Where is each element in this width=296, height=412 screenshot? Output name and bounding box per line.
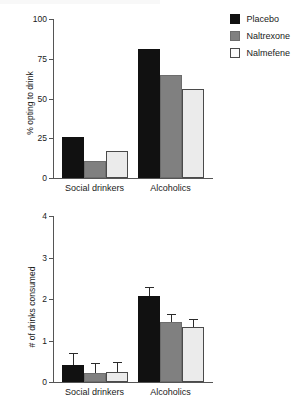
- y-tick-label: 3: [42, 253, 47, 262]
- y-axis-title-top: % opting to drink: [25, 71, 35, 134]
- y-tick-mark: [49, 19, 53, 20]
- y-tick-mark: [49, 178, 53, 179]
- chart-panel-drinks-consumed: 01234 Social drinkersAlcoholics # of dri…: [0, 206, 296, 412]
- y-axis-line-bottom: [53, 216, 54, 382]
- y-axis-title-bottom: # of drinks consumed: [27, 267, 37, 348]
- error-bar-stem: [171, 314, 172, 321]
- y-tick-label: 4: [42, 212, 47, 221]
- error-bar-stem: [117, 362, 118, 372]
- bar-placebo-alcoholics: [138, 296, 160, 382]
- figure-two-panel-bar-chart: 0255075100 Social drinkersAlcoholics % o…: [0, 0, 296, 412]
- y-tick-label: 75: [38, 55, 47, 64]
- bar-naltrexone-social-drinkers: [84, 161, 106, 178]
- chart-panel-percent-opting: 0255075100 Social drinkersAlcoholics % o…: [0, 0, 296, 206]
- x-category-label: Alcoholics: [150, 183, 191, 193]
- bar-nalmefene-social-drinkers: [106, 151, 128, 178]
- legend-label-naltrexone: Naltrexone: [246, 32, 290, 41]
- error-bar-cap: [91, 363, 100, 364]
- y-tick-mark: [49, 59, 53, 60]
- y-tick-label: 2: [42, 295, 47, 304]
- y-tick-label: 0: [42, 378, 47, 387]
- bar-naltrexone-alcoholics: [160, 322, 182, 382]
- bar-nalmefene-alcoholics: [182, 89, 204, 178]
- y-axis-line-top: [53, 19, 54, 178]
- y-tick-mark: [49, 299, 53, 300]
- x-axis-line-top: [53, 178, 213, 179]
- x-category-label: Alcoholics: [150, 387, 191, 397]
- y-tick-mark: [49, 138, 53, 139]
- plot-area-bottom: 01234 Social drinkersAlcoholics: [53, 216, 213, 382]
- chart-legend: Placebo Naltrexone Nalmefene: [230, 14, 290, 65]
- bar-placebo-alcoholics: [138, 49, 160, 178]
- error-bar-cap: [69, 353, 78, 354]
- y-tick-label: 100: [33, 15, 47, 24]
- bar-nalmefene-social-drinkers: [106, 372, 128, 382]
- bar-placebo-social-drinkers: [62, 137, 84, 178]
- y-tick-label: 0: [42, 174, 47, 183]
- y-tick-mark: [49, 258, 53, 259]
- legend-swatch-naltrexone: [230, 31, 240, 41]
- y-tick-mark: [49, 341, 53, 342]
- error-bar-cap: [167, 314, 176, 315]
- bar-placebo-social-drinkers: [62, 365, 84, 382]
- bar-naltrexone-alcoholics: [160, 75, 182, 178]
- x-axis-line-bottom: [53, 382, 213, 383]
- bar-nalmefene-alcoholics: [182, 327, 204, 382]
- y-tick-mark: [49, 382, 53, 383]
- legend-item-placebo[interactable]: Placebo: [230, 14, 290, 24]
- error-bar-stem: [95, 363, 96, 373]
- y-tick-label: 25: [38, 134, 47, 143]
- error-bar-cap: [189, 319, 198, 320]
- legend-item-naltrexone[interactable]: Naltrexone: [230, 31, 290, 41]
- y-tick-mark: [49, 216, 53, 217]
- plot-area-top: 0255075100 Social drinkersAlcoholics: [53, 19, 213, 178]
- error-bar-cap: [145, 287, 154, 288]
- error-bar-stem: [193, 319, 194, 326]
- legend-label-nalmefene: Nalmefene: [246, 49, 290, 58]
- error-bar-stem: [149, 287, 150, 296]
- x-category-label: Social drinkers: [65, 387, 124, 397]
- bar-naltrexone-social-drinkers: [84, 373, 106, 382]
- x-category-label: Social drinkers: [65, 183, 124, 193]
- y-tick-label: 1: [42, 336, 47, 345]
- legend-swatch-placebo: [230, 14, 240, 24]
- legend-label-placebo: Placebo: [246, 15, 279, 24]
- legend-swatch-nalmefene: [230, 48, 240, 58]
- error-bar-stem: [73, 353, 74, 365]
- y-tick-label: 50: [38, 94, 47, 103]
- legend-item-nalmefene[interactable]: Nalmefene: [230, 48, 290, 58]
- y-tick-mark: [49, 99, 53, 100]
- error-bar-cap: [113, 362, 122, 363]
